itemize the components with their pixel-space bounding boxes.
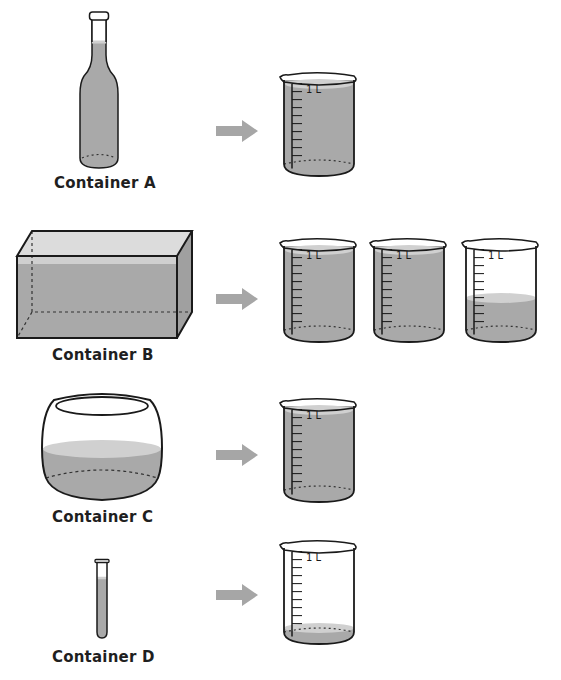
- test-tube-icon: [94, 558, 110, 640]
- container-a-label: Container A: [54, 174, 148, 192]
- beaker-b2-full: 1 L: [368, 238, 450, 344]
- beaker-a-full: 1 L: [278, 72, 360, 178]
- right-arrow-icon: [216, 444, 258, 466]
- right-arrow-icon: [216, 120, 258, 142]
- beaker-b1-full: 1 L: [278, 238, 360, 344]
- rectangular-tank-icon: [14, 226, 194, 342]
- round-bowl-icon: [40, 392, 164, 504]
- container-b-label: Container B: [52, 346, 150, 364]
- container-c-label: Container C: [52, 508, 152, 526]
- right-arrow-icon: [216, 288, 258, 310]
- beaker-d-nearly-empty: 1 L: [278, 540, 360, 646]
- beaker-c-full: 1 L: [278, 398, 360, 504]
- bottle-icon: [74, 10, 124, 170]
- container-d-label: Container D: [52, 648, 152, 666]
- beaker-b3-partial: 1 L: [460, 238, 542, 344]
- right-arrow-icon: [216, 584, 258, 606]
